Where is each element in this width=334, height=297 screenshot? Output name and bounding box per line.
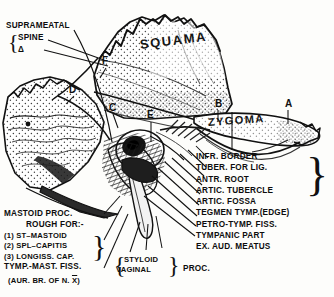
label-petro-tymp-fiss: PETRO-TYMP. FISS. <box>196 221 290 229</box>
aur-br-suffix: ) <box>77 276 80 285</box>
label-tympanic-part: TYMPANIC PART <box>196 232 290 240</box>
label-spl-capitis: (2) SPL–CAPITIS <box>4 242 84 250</box>
right-label-brace: } <box>306 152 328 198</box>
mastoid-items-brace: } <box>92 231 106 261</box>
supra-meatal-spine-label: SPINE <box>18 34 44 42</box>
label-longiss-cap: (3) LONGISS. CAP. <box>4 253 84 261</box>
supra-meatal-triangle-label: Δ <box>18 46 24 54</box>
callout-letter-c: C <box>109 103 116 113</box>
label-tymp-mast-fiss: TYMP.-MAST. FISS. <box>4 263 84 271</box>
supra-meatal-brace: { <box>8 31 19 53</box>
label-mastoid-proc: MASTOID PROC. <box>4 210 84 218</box>
callout-letter-d: D <box>69 85 76 95</box>
aur-br-prefix: (AUR. BR. OF N. <box>8 276 72 285</box>
label-infr-border: INFR. BORDER <box>196 153 290 161</box>
callout-letter-e: E <box>147 110 154 120</box>
callout-letter-a: A <box>285 99 292 109</box>
label-proc: PROC. <box>183 265 210 273</box>
label-tegmen-tymp-edge: TEGMEN TYMP.(EDGE) <box>196 209 290 217</box>
figure-canvas: SUPRAMEATAL { SPINE Δ SQUAMA ZYGOMA A B … <box>0 0 334 297</box>
mastoid-label-block: MASTOID PROC. ROUGH FOR:- (1) ST–MASTOID… <box>4 210 84 274</box>
callout-letter-f: F <box>102 56 108 66</box>
styloid-brace-right: } <box>168 253 180 277</box>
label-aur-br-nerve: (AUR. BR. OF N. X) <box>8 277 80 285</box>
label-antr-root: ANTR. ROOT <box>196 176 290 184</box>
styloid-process-region <box>122 158 157 238</box>
right-label-list: INFR. BORDER TUBER. FOR LIG. ANTR. ROOT … <box>196 153 290 255</box>
label-styloid: STYLOID <box>124 256 158 264</box>
label-tuber-for-lig: TUBER. FOR LIG. <box>196 164 290 172</box>
label-ex-aud-meatus: EX. AUD. MEATUS <box>196 243 290 251</box>
callout-letter-b: B <box>215 99 222 109</box>
label-st-mastoid: (1) ST–MASTOID <box>4 232 84 240</box>
label-rough-for: ROUGH FOR:- <box>26 221 84 229</box>
label-artic-tubercle: ARTIC. TUBERCLE <box>196 187 290 195</box>
label-vaginal: VAGINAL <box>116 266 158 274</box>
styloid-label-block: STYLOID VAGINAL <box>124 256 158 276</box>
label-artic-fossa: ARTIC. FOSSA <box>196 198 290 206</box>
